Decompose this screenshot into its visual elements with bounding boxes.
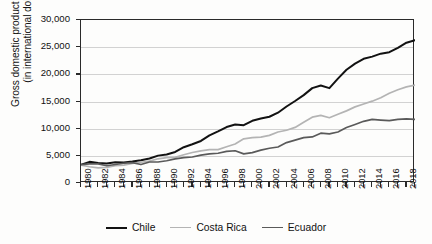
x-axis-tick-label: 2008 <box>324 168 334 189</box>
legend-item-costa-rica[interactable]: Costa Rica <box>170 222 246 233</box>
y-axis-tick <box>76 46 80 47</box>
x-axis-tick-label: 2000 <box>255 168 265 189</box>
x-axis-tick-label: 2014 <box>375 168 385 189</box>
x-axis-tick-label: 2016 <box>392 168 402 189</box>
x-axis-tick-label: 1986 <box>135 168 145 189</box>
x-axis-tick-label: 2012 <box>358 168 368 189</box>
x-axis-tick-label: 1988 <box>153 168 163 189</box>
x-axis-tick-label: 1994 <box>204 168 214 189</box>
x-axis-tick-label: 2010 <box>341 168 351 189</box>
legend-swatch-icon <box>106 227 127 229</box>
y-axis-tick <box>76 73 80 74</box>
legend-label: Ecuador <box>288 222 326 233</box>
x-axis-tick-label: 1990 <box>170 168 180 189</box>
legend-swatch-icon <box>262 227 283 228</box>
x-axis-tick-label: 1982 <box>101 168 111 189</box>
x-axis-tick-label: 1992 <box>187 168 197 189</box>
x-axis-tick-label: 2006 <box>307 168 317 189</box>
y-axis-tick <box>76 19 80 20</box>
legend-item-ecuador[interactable]: Ecuador <box>262 222 326 233</box>
y-axis-tick <box>76 155 80 156</box>
x-axis-tick-label: 1984 <box>118 168 128 189</box>
x-axis-tick-labels: 1980198219841986198819901992199419961998… <box>0 0 432 244</box>
x-axis-tick-label: 1998 <box>238 168 248 189</box>
x-axis-tick-label: 2018 <box>409 168 419 189</box>
legend-label: Costa Rica <box>196 222 246 233</box>
y-axis-tick <box>76 182 80 183</box>
y-axis-tick <box>76 128 80 129</box>
legend-item-chile[interactable]: Chile <box>106 222 155 233</box>
x-axis-tick-label: 2004 <box>290 168 300 189</box>
legend-label: Chile <box>132 222 155 233</box>
chart-legend: ChileCosta RicaEcuador <box>0 222 432 233</box>
x-axis-tick-label: 2002 <box>272 168 282 189</box>
y-axis-tick <box>76 101 80 102</box>
x-axis-tick-label: 1980 <box>84 168 94 189</box>
legend-swatch-icon <box>170 227 191 228</box>
chart-figure: Gross domestic product per capita (in in… <box>0 0 432 244</box>
x-axis-tick-label: 1996 <box>221 168 231 189</box>
